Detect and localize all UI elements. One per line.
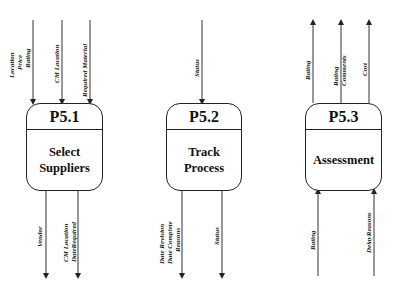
flow-label-rating-comments: Rating Comments [332, 55, 348, 86]
process-name-line: Select [49, 145, 80, 159]
process-p5-3: P5.3 Assessment [305, 103, 382, 191]
flow-label-location-price-rating: Location Price Rating [8, 49, 32, 78]
process-name-line: Process [184, 161, 224, 175]
flow-label-rating-in: Rating [309, 231, 317, 250]
process-name-line: Suppliers [39, 161, 90, 175]
process-id: P5.1 [27, 104, 102, 130]
flow-label-dates-reasons: Date Revision Date Complete Reasons [158, 221, 182, 264]
flow-label-rating-out: Rating [304, 61, 312, 80]
flow-label-cm-location-in: CM Location [53, 45, 61, 83]
process-name-line: Track [188, 145, 220, 159]
flow-label-status-out: Status [213, 227, 221, 245]
process-id: P5.2 [167, 104, 241, 130]
process-name: SelectSuppliers [27, 129, 102, 190]
process-p5-1: P5.1 SelectSuppliers [26, 103, 103, 191]
flow-label-cm-location-daterequired: CM Location DateRequired [62, 222, 78, 262]
process-name: Assessment [306, 129, 381, 190]
flow-label-cost: Cost [361, 63, 369, 76]
flow-label-status-in: Status [193, 59, 201, 77]
process-id: P5.3 [306, 104, 381, 130]
process-p5-2: P5.2 TrackProcess [166, 103, 242, 191]
process-name: TrackProcess [167, 129, 241, 190]
flow-label-vendor: Vendor [36, 226, 44, 247]
flow-label-delay-reasons: DelayReasons [365, 212, 373, 253]
process-name-line: Assessment [313, 153, 374, 167]
flow-label-required-material: Required Material [81, 44, 89, 97]
